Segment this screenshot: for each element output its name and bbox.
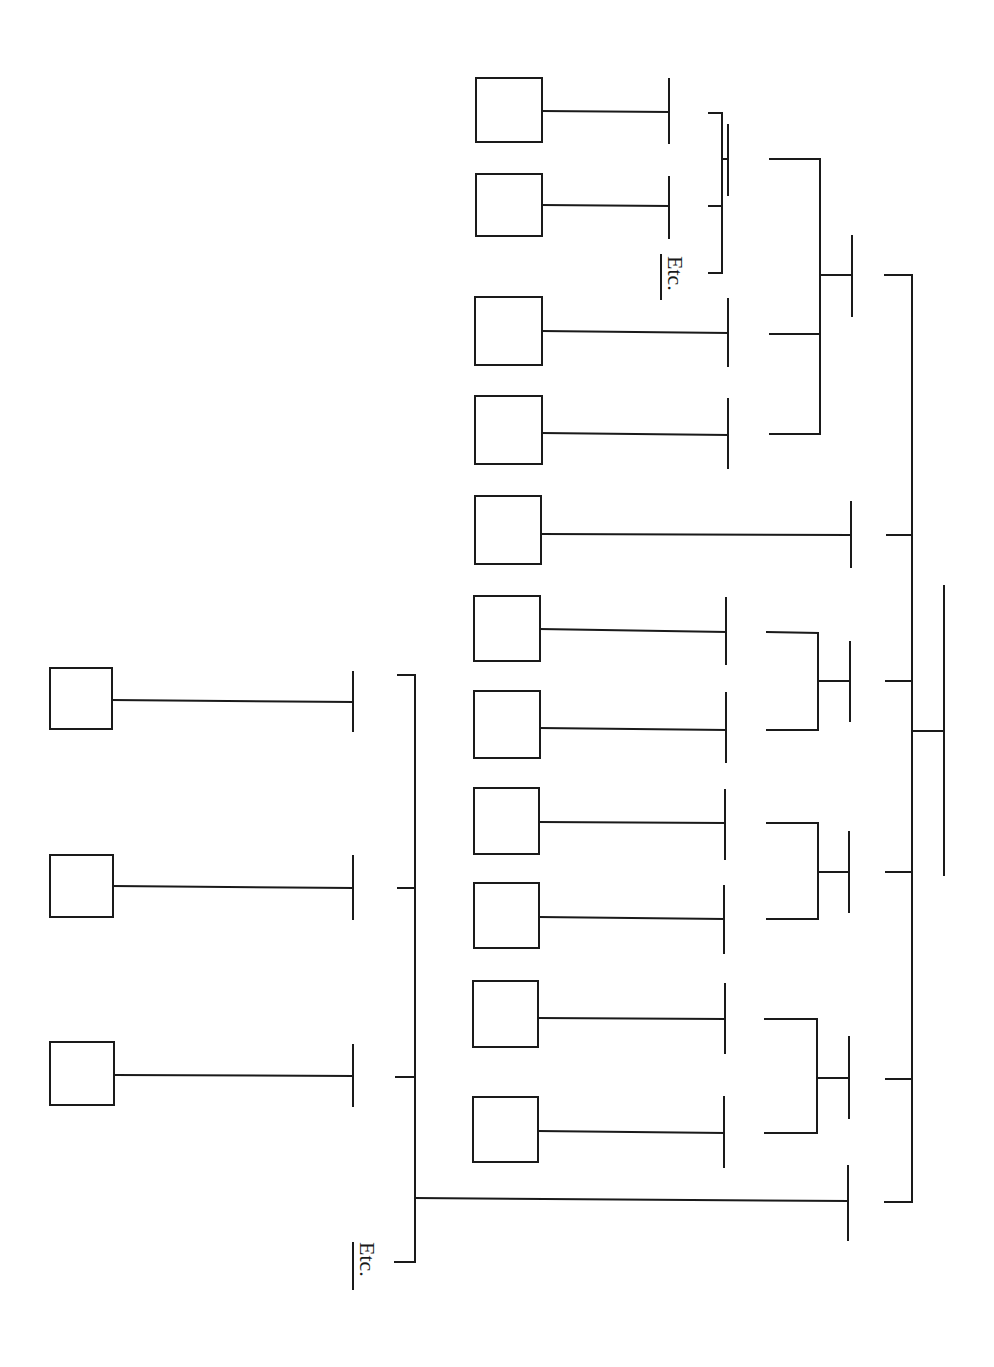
- connector-line: [538, 1018, 725, 1019]
- node-box-b14: [50, 1042, 114, 1105]
- node-box-b12: [50, 668, 112, 729]
- connector-line: [542, 433, 728, 435]
- connector-lines: [112, 79, 944, 1262]
- connector-line: [540, 728, 726, 730]
- node-box-b7: [474, 691, 540, 758]
- connector-line: [113, 886, 353, 888]
- node-box-b3: [475, 297, 542, 365]
- connector-line: [539, 917, 724, 919]
- connector-line: [540, 629, 726, 632]
- connector-line: [542, 111, 669, 112]
- connector-line: [767, 632, 818, 633]
- node-box-b10: [473, 981, 538, 1047]
- node-box-b13: [50, 855, 113, 917]
- connector-line: [541, 534, 851, 535]
- node-box-b11: [473, 1097, 538, 1162]
- node-box-b4: [475, 396, 542, 464]
- node-box-b8: [474, 788, 539, 854]
- connector-line: [539, 822, 725, 823]
- etc-label-bottom: Etc.: [355, 1242, 380, 1277]
- connector-line: [538, 1131, 724, 1133]
- node-boxes: [50, 78, 542, 1162]
- node-box-b2: [476, 174, 542, 236]
- connector-line: [542, 331, 728, 333]
- connector-line: [112, 700, 353, 702]
- node-box-b1: [476, 78, 542, 142]
- etc-label-bottom-text: Etc.: [355, 1242, 380, 1277]
- node-box-b5: [475, 496, 541, 564]
- connector-line: [542, 205, 669, 206]
- node-box-b9: [474, 883, 539, 948]
- connector-line: [114, 1075, 353, 1076]
- etc-label-top-text: Etc.: [663, 256, 688, 291]
- etc-label-top: Etc.: [663, 256, 688, 291]
- connector-line: [415, 1198, 848, 1201]
- node-box-b6: [474, 596, 540, 661]
- hierarchy-diagram: Etc. Etc.: [0, 0, 994, 1367]
